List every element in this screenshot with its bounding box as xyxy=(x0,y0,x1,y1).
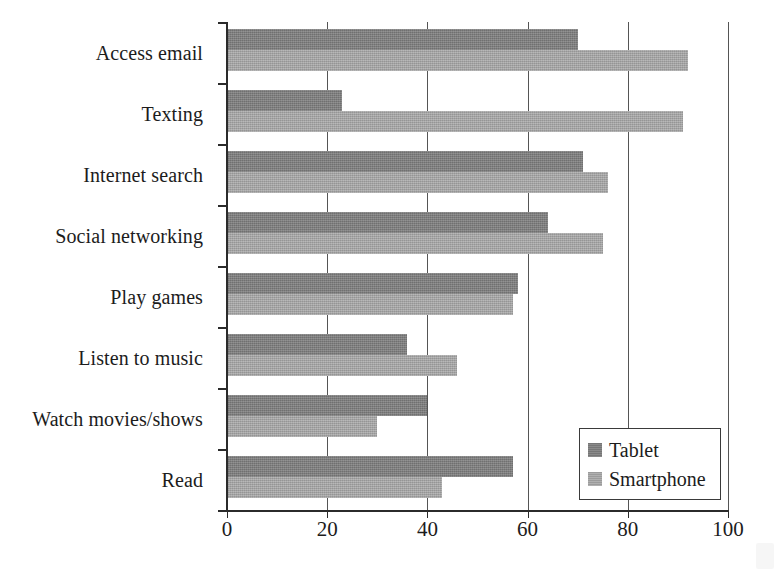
category-label: Read xyxy=(162,469,204,491)
y-axis-tick xyxy=(218,266,227,268)
legend-item-smartphone[interactable]: Smartphone xyxy=(588,464,712,493)
y-axis-tick xyxy=(218,22,227,24)
bar-smartphone xyxy=(227,111,683,132)
bar-smartphone xyxy=(227,477,442,498)
bar-smartphone xyxy=(227,50,688,71)
bar-tablet xyxy=(227,456,513,477)
x-axis-tick-label: 20 xyxy=(317,516,338,542)
legend-swatch-icon xyxy=(588,443,602,457)
x-axis-tick-label: 60 xyxy=(517,516,538,542)
horizontal-bar-chart: Access email Texting Internet search Soc… xyxy=(0,0,778,575)
bar-group xyxy=(227,22,728,83)
bar-group xyxy=(227,83,728,144)
legend-label: Smartphone xyxy=(609,468,706,490)
bar-group xyxy=(227,144,728,205)
bar-tablet xyxy=(227,90,342,111)
y-axis-tick xyxy=(218,205,227,207)
legend-label: Tablet xyxy=(609,439,659,461)
bar-smartphone xyxy=(227,233,603,254)
category-label: Access email xyxy=(96,42,203,64)
value-axis-labels: 020406080100 xyxy=(227,516,728,550)
legend: Tablet Smartphone xyxy=(579,428,721,500)
bar-group xyxy=(227,327,728,388)
bar-smartphone xyxy=(227,416,377,437)
y-axis-tick xyxy=(218,388,227,390)
bar-smartphone xyxy=(227,172,608,193)
bar-smartphone xyxy=(227,294,513,315)
y-axis-tick xyxy=(218,144,227,146)
gridline xyxy=(728,22,729,510)
bar-tablet xyxy=(227,334,407,355)
category-label: Listen to music xyxy=(78,347,203,369)
category-axis-labels: Access email Texting Internet search Soc… xyxy=(0,22,215,510)
scan-artifact xyxy=(756,543,774,569)
x-axis-tick-label: 0 xyxy=(222,516,233,542)
bar-tablet xyxy=(227,395,427,416)
x-axis-tick-label: 80 xyxy=(617,516,638,542)
y-axis-tick xyxy=(218,83,227,85)
bar-tablet xyxy=(227,273,518,294)
bar-tablet xyxy=(227,29,578,50)
category-label: Watch movies/shows xyxy=(32,408,203,430)
bar-tablet xyxy=(227,212,548,233)
y-axis-tick xyxy=(218,510,227,512)
x-axis-tick-label: 40 xyxy=(417,516,438,542)
x-axis-line xyxy=(226,510,729,512)
legend-swatch-icon xyxy=(588,472,602,486)
bar-group xyxy=(227,266,728,327)
category-label: Social networking xyxy=(55,225,203,247)
bar-smartphone xyxy=(227,355,457,376)
x-axis-tick-label: 100 xyxy=(712,516,744,542)
category-label: Texting xyxy=(141,103,203,125)
y-axis-tick xyxy=(218,449,227,451)
legend-item-tablet[interactable]: Tablet xyxy=(588,435,712,464)
bar-tablet xyxy=(227,151,583,172)
category-label: Play games xyxy=(110,286,203,308)
category-label: Internet search xyxy=(83,164,203,186)
bar-group xyxy=(227,205,728,266)
y-axis-tick xyxy=(218,327,227,329)
